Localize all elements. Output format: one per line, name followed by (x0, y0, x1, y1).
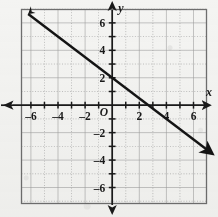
x-tick-label: –6 (24, 110, 37, 122)
chart-background (0, 0, 218, 217)
y-tick-label: –6 (93, 182, 106, 194)
coordinate-plane-chart: –6–4–2246642–2–4–6 x y O (0, 0, 218, 217)
y-tick-label: 6 (99, 17, 105, 29)
y-tick-label: –2 (93, 127, 106, 139)
y-tick-label: 4 (99, 44, 105, 56)
x-tick-label: 2 (136, 110, 142, 122)
origin-label: O (100, 106, 108, 118)
graph-canvas: –6–4–2246642–2–4–6 x y O (0, 0, 218, 217)
x-tick-label: –4 (51, 110, 64, 122)
y-tick-label: –4 (93, 154, 106, 166)
x-axis-label: x (205, 85, 212, 99)
y-tick-label: 2 (99, 72, 105, 84)
x-tick-label: 6 (191, 110, 197, 122)
y-axis-label: y (116, 1, 124, 15)
x-tick-label: –2 (78, 110, 91, 122)
